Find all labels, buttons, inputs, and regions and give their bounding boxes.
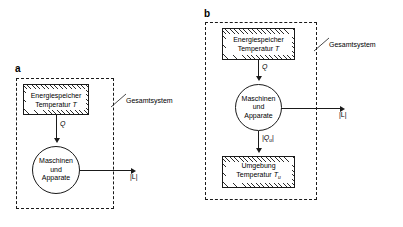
machines-line-2-a: und xyxy=(50,166,62,175)
environment-box-b: Umgebung Temperatur Tu xyxy=(222,156,295,188)
machines-circle-b: Maschinen und Apparate xyxy=(235,84,282,131)
work-flow-label-b: |L| xyxy=(339,111,347,119)
energy-store-line-1-a: Energiespeicher xyxy=(31,91,82,100)
machines-line-2-b: und xyxy=(253,103,265,112)
energy-flow-figure: a Energiespeicher Temperatur T Q Maschin… xyxy=(0,0,403,227)
work-flow-label-a: |L| xyxy=(130,173,138,181)
heat-flow-line-a xyxy=(56,115,57,140)
environment-line-1-b: Umgebung xyxy=(241,161,275,170)
energy-store-line-1-b: Energiespeicher xyxy=(233,35,284,44)
environment-line-2-b: Temperatur Tu xyxy=(236,170,280,182)
energy-store-line-2-b: Temperatur T xyxy=(238,44,280,53)
panel-letter-b: b xyxy=(204,9,210,19)
work-flow-line-b xyxy=(281,108,341,109)
heat-flow-arrowhead-b xyxy=(256,76,262,81)
machines-line-3-a: Apparate xyxy=(42,174,70,183)
machines-line-1-b: Maschinen xyxy=(242,95,276,104)
heat-flow-arrowhead-a xyxy=(54,138,60,143)
temperature-symbol-b: T xyxy=(275,45,279,52)
heat-flow-label-b: Q xyxy=(262,63,267,71)
boundary-label-a: Gesamtsystem xyxy=(126,97,173,105)
work-flow-line-a xyxy=(80,170,132,171)
machines-line-1-a: Maschinen xyxy=(39,157,73,166)
environment-temperature-subscript-b: u xyxy=(278,175,281,181)
boundary-label-b: Gesamtsystem xyxy=(329,41,376,49)
energy-store-box-b: Energiespeicher Temperatur T xyxy=(222,28,295,60)
machines-circle-a: Maschinen und Apparate xyxy=(32,146,80,194)
energy-store-line-2-a: Temperatur T xyxy=(35,100,77,109)
heat-reject-arrowhead-b xyxy=(256,148,262,153)
panel-letter-a: a xyxy=(15,64,21,74)
machines-line-3-b: Apparate xyxy=(244,112,272,121)
heat-flow-label-a: Q xyxy=(60,120,65,128)
heat-reject-label-b: |Qu| xyxy=(262,134,274,144)
energy-store-box-a: Energiespeicher Temperatur T xyxy=(23,84,89,115)
temperature-symbol-a: T xyxy=(73,101,77,108)
